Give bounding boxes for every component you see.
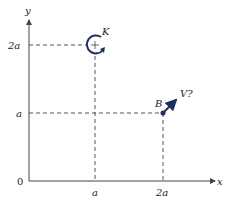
x-tick-2a: 2a <box>155 187 168 198</box>
origin-label: 0 <box>17 176 23 187</box>
kinematics-diagram: y x 0 a 2a 2a a K B V? <box>0 0 225 200</box>
couple-label: K <box>101 26 110 37</box>
velocity-label: V? <box>180 88 193 99</box>
y-tick-a: a <box>16 108 22 119</box>
x-axis-label: x <box>217 176 223 187</box>
x-tick-a: a <box>92 187 98 198</box>
y-tick-2a: 2a <box>7 40 20 51</box>
y-axis-label: y <box>24 5 31 16</box>
point-b-label: B <box>154 98 162 109</box>
velocity-arrow-icon <box>163 100 176 113</box>
